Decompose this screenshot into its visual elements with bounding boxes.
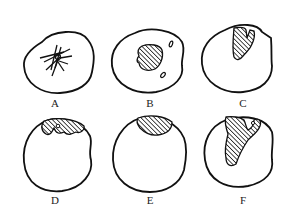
satellite-spot [160,72,166,79]
hatched-mass-b [137,45,162,71]
radiating-fibers-icon [40,45,72,76]
panel-c [202,25,272,92]
panel-f [204,117,272,187]
panel-b [112,30,184,93]
panel-e [113,116,186,192]
panel-label-b: B [146,97,153,109]
hatched-region-f [225,117,260,166]
satellite-spot [169,41,174,48]
panel-a [24,32,94,93]
hatched-fork-c [233,27,255,59]
panel-label-e: E [147,194,154,206]
panel-label-f: F [240,194,246,206]
panel-label-c: C [239,97,246,109]
hatched-cap-d [42,119,84,135]
diagram-figure: A B C D E F [0,0,291,218]
panel-d [24,119,92,192]
panel-label-d: D [51,194,59,206]
panel-label-a: A [51,97,59,109]
hatched-crescent-e [137,116,172,135]
